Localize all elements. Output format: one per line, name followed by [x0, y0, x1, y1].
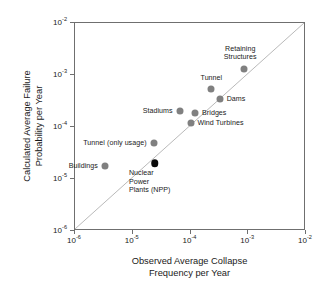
data-point-label-line: Plants (NPP) — [129, 186, 171, 194]
x-tick-label-0: 10-6 — [67, 236, 81, 245]
data-point-label: Tunnel — [201, 73, 223, 81]
y-tick-label-4: 10-2 — [53, 18, 67, 27]
x-tick-mark-1 — [132, 230, 133, 234]
data-point-label-line: Bridges — [202, 108, 226, 116]
x-tick-mark-0 — [74, 230, 75, 234]
data-point[interactable] — [241, 66, 248, 73]
data-point-label: NuclearPowerPlants (NPP) — [129, 169, 171, 194]
data-point[interactable] — [150, 139, 157, 146]
x-axis-title-line-1: Observed Average Collapse — [74, 256, 305, 268]
y-tick-label-2: 10-4 — [53, 122, 67, 131]
data-point-label: RetainingStructures — [224, 45, 257, 62]
y-tick-label-3: 10-3 — [53, 70, 67, 79]
data-point-label-line: Tunnel (only usage) — [83, 138, 146, 146]
data-point[interactable] — [151, 160, 159, 168]
data-point[interactable] — [208, 85, 215, 92]
x-tick-label-4: 10-2 — [298, 236, 312, 245]
x-tick-label-1: 10-5 — [125, 236, 139, 245]
data-point[interactable] — [192, 109, 199, 116]
data-point-label-line: Dams — [227, 95, 246, 103]
data-point-label-line: Wind Turbines — [198, 119, 244, 127]
data-point-label: Dams — [227, 95, 246, 103]
x-tick-label-3: 10-3 — [240, 236, 254, 245]
data-point-label: Wind Turbines — [198, 119, 244, 127]
x-tick-mark-3 — [247, 230, 248, 234]
x-tick-mark-2 — [190, 230, 191, 234]
x-tick-mark-4 — [305, 230, 306, 234]
data-point-label: Stadiums — [143, 107, 173, 115]
y-axis-title-line-1: Calculated Average Failure — [22, 22, 34, 230]
x-tick-label-2: 10-4 — [183, 236, 197, 245]
y-tick-label-0: 10-6 — [53, 226, 67, 235]
scatter-plot-figure: Calculated Average Failure Probability p… — [0, 0, 327, 294]
data-point-label: Buildings — [69, 162, 98, 170]
data-point-label: Bridges — [202, 108, 226, 116]
data-point-label-line: Stadiums — [143, 107, 173, 115]
data-point-label-line: Buildings — [69, 162, 98, 170]
data-point-label-line: Tunnel — [201, 73, 223, 81]
x-axis-title: Observed Average Collapse Frequency per … — [74, 256, 305, 279]
data-point[interactable] — [101, 162, 108, 169]
x-axis-title-line-2: Frequency per Year — [74, 268, 305, 280]
data-point-label-line: Nuclear — [129, 169, 171, 177]
data-point[interactable] — [187, 119, 194, 126]
data-point-label-line: Structures — [224, 54, 257, 62]
data-point[interactable] — [216, 95, 223, 102]
plot-area: BuildingsTunnel (only usage)NuclearPower… — [74, 22, 305, 230]
data-point-label-line: Power — [129, 178, 171, 186]
y-axis-title: Calculated Average Failure Probability p… — [22, 22, 45, 230]
data-point-label-line: Retaining — [224, 45, 257, 53]
data-point[interactable] — [176, 108, 183, 115]
y-axis-title-line-2: Probability per Year — [34, 22, 46, 230]
data-point-label: Tunnel (only usage) — [83, 138, 146, 146]
y-tick-mark-0 — [70, 230, 74, 231]
y-tick-label-1: 10-5 — [53, 174, 67, 183]
